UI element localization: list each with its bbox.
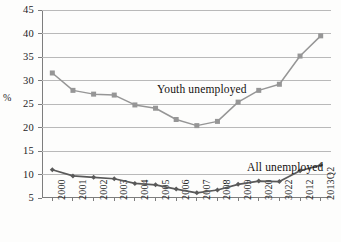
- data-point: [215, 188, 220, 193]
- data-point: [236, 182, 241, 187]
- plot-area: 45403530252015105 2000200120022003200420…: [42, 10, 331, 198]
- y-tick-label-40: 40: [8, 29, 34, 39]
- data-point: [277, 82, 282, 87]
- annotation-all-unemployed: All unemployed: [247, 161, 324, 173]
- data-point: [70, 173, 75, 178]
- data-point: [153, 106, 158, 111]
- data-point: [318, 33, 323, 38]
- data-point: [194, 190, 199, 195]
- data-point: [256, 88, 261, 93]
- y-tick-label-15: 15: [8, 146, 34, 156]
- y-tick-label-30: 30: [8, 76, 34, 86]
- y-tick-label-20: 20: [8, 123, 34, 133]
- data-point: [91, 175, 96, 180]
- data-point: [91, 92, 96, 97]
- data-point: [70, 88, 75, 93]
- y-tick-label-5: 5: [8, 193, 34, 203]
- data-point: [132, 181, 137, 186]
- data-point: [50, 70, 55, 75]
- y-tick-label-35: 35: [8, 52, 34, 62]
- data-point: [132, 102, 137, 107]
- y-tick-label-45: 45: [8, 5, 34, 15]
- y-tick-label-10: 10: [8, 170, 34, 180]
- data-point: [174, 117, 179, 122]
- data-point: [174, 187, 179, 192]
- data-point: [256, 179, 261, 184]
- line-youth-unemployed: [52, 36, 320, 126]
- y-tick-label-25: 25: [8, 99, 34, 109]
- series-youth-unemployed: [50, 33, 323, 128]
- annotation-youth-unemployed: Youth unemployed: [157, 83, 247, 95]
- data-point: [153, 182, 158, 187]
- data-point: [112, 93, 117, 98]
- data-point: [236, 100, 241, 105]
- data-point: [50, 167, 55, 172]
- data-point: [194, 123, 199, 128]
- data-point: [112, 176, 117, 181]
- data-point: [215, 119, 220, 124]
- chart-figure: % 45403530252015105 20002001200220032004…: [0, 0, 341, 242]
- data-point: [298, 54, 303, 59]
